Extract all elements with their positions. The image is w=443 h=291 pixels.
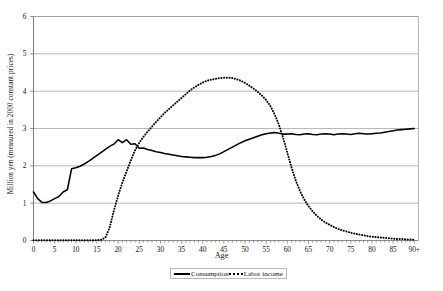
legend-item-consumption: Consumption — [174, 270, 229, 278]
legend-label-labor-income: Labor income — [244, 270, 283, 278]
x-axis-title: Age — [0, 251, 443, 260]
y-tick-label-4: 4 — [11, 87, 27, 96]
y-tick-label-3: 3 — [11, 124, 27, 133]
y-tick-label-0: 0 — [11, 236, 27, 245]
y-tick-label-6: 6 — [11, 12, 27, 21]
dotted-line-icon — [229, 273, 243, 275]
solid-line-icon — [174, 273, 190, 275]
y-tick-label-1: 1 — [11, 199, 27, 208]
chart-legend: Consumption Labor income — [170, 268, 287, 279]
y-tick-label-2: 2 — [11, 161, 27, 170]
legend-label-consumption: Consumption — [191, 270, 229, 278]
y-tick-label-5: 5 — [11, 49, 27, 58]
legend-item-labor-income: Labor income — [229, 270, 283, 278]
series-line-consumption — [34, 129, 415, 203]
chart-container: Million yen (measured in 2000 constant p… — [0, 0, 443, 291]
